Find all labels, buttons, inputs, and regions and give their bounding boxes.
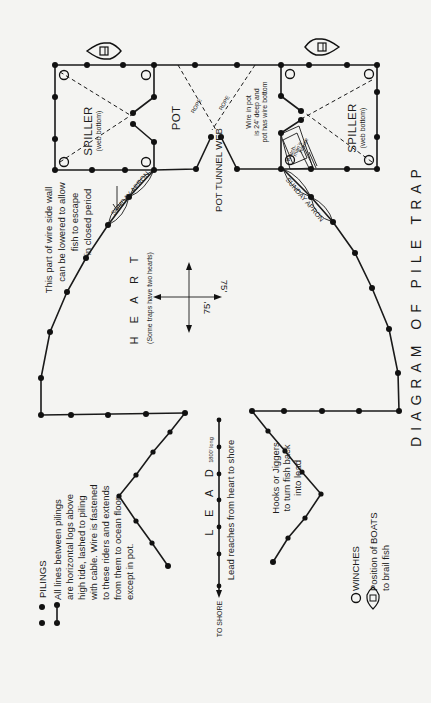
legend-pilings: PILINGS: [37, 561, 48, 599]
winch-icon: [60, 71, 69, 80]
pile-trap-diagram: SPILLER (web bottom) SPILLER (web bottom…: [0, 0, 431, 703]
heart-right-wall: [283, 169, 399, 411]
dimension-depth: 75': [219, 280, 230, 293]
lead-label: L E A D: [203, 464, 215, 535]
legend-boats-line1: Position of BOATS: [368, 513, 379, 592]
svg-text:to these riders and extends: to these riders and extends: [100, 485, 111, 600]
boat-icon: [87, 43, 121, 59]
rope-right-label: ROPE: [218, 94, 231, 111]
left-spiller-sublabel: (web bottom): [95, 111, 103, 152]
left-spiller-outer-wall: [55, 65, 154, 170]
boat-icon: [305, 39, 339, 55]
svg-text:with cable. Wire is fastened: with cable. Wire is fastened: [88, 484, 99, 601]
left-spiller-web-diagonal-a: [60, 72, 130, 115]
diagram-title: DIAGRAM OF PILE TRAP: [408, 163, 424, 447]
piling-icon: [39, 604, 45, 610]
to-shore-label: TO SHORE: [216, 600, 223, 637]
left-spiller-label: SPILLER: [82, 106, 94, 155]
sunday-apron-left-label: SUNDAY APRON: [110, 170, 151, 217]
lead-note: Lead reaches from heart to shore: [225, 440, 236, 580]
heart-label: H E A R T: [128, 251, 140, 344]
hooks-note: Hooks or Jiggers to turn fish back into …: [270, 442, 303, 514]
svg-text:This part of wire side wall: This part of wire side wall: [43, 187, 54, 294]
legend-lines-note: All lines between pilings are horizontal…: [52, 484, 135, 601]
svg-text:Hooks or Jiggers: Hooks or Jiggers: [270, 442, 281, 514]
legend-winches: WINCHES: [350, 546, 361, 591]
svg-text:are horizontal logs above: are horizontal logs above: [64, 494, 75, 600]
left-spiller-funnel-top: [133, 65, 154, 113]
svg-text:Wire in pot: Wire in pot: [245, 95, 253, 129]
legend-winch-icon: [352, 594, 361, 603]
svg-text:in closed period: in closed period: [82, 189, 93, 256]
dimension-width: 75': [201, 302, 212, 315]
pot-tunnel-web-label: POT TUNNEL WEB: [213, 128, 224, 212]
rope-left-label: ROPE: [190, 97, 203, 114]
heart-note: (Some traps have two hearts): [146, 252, 154, 344]
svg-text:from them to ocean floor: from them to ocean floor: [112, 497, 123, 600]
side-wall-note: This part of wire side wall can be lower…: [43, 182, 93, 293]
winch-icon: [365, 70, 374, 79]
winch-icon: [286, 70, 295, 79]
dimension-arrows: [153, 262, 222, 333]
svg-text:All lines between pilings: All lines between pilings: [52, 499, 63, 600]
svg-text:except in pot.: except in pot.: [124, 543, 135, 600]
to-shore-arrowhead: [216, 590, 222, 598]
pot-label: POT: [170, 106, 182, 131]
pot-tunnel-right: [221, 137, 281, 169]
heart-left-bottom: [41, 413, 185, 415]
svg-text:to turn fish back: to turn fish back: [281, 444, 292, 511]
legend-boats-line2: to brail fish: [380, 545, 391, 591]
svg-text:is 24' deep and: is 24' deep and: [253, 88, 261, 135]
piling-icon: [39, 620, 45, 626]
svg-text:pot has wire bottom: pot has wire bottom: [261, 81, 269, 142]
right-spiller-sublabel: (web bottom): [359, 108, 367, 149]
svg-text:into lead: into lead: [292, 460, 303, 496]
winch-icon: [142, 158, 151, 167]
right-spiller-label: SPILLER: [346, 103, 358, 152]
lead-length: 1800' long: [208, 437, 214, 463]
pot-tunnel-left: [154, 137, 211, 170]
wire-pot-note: Wire in pot is 24' deep and pot has wire…: [245, 81, 269, 142]
right-spiller-funnel-top: [281, 65, 301, 111]
winch-icon: [142, 71, 151, 80]
svg-text:can be lowered to allow: can be lowered to allow: [56, 182, 67, 281]
svg-text:high tide, lashed to piling: high tide, lashed to piling: [76, 495, 87, 600]
svg-text:fish to escape: fish to escape: [69, 193, 80, 252]
sunday-apron-right-label: SUNDAY APRON: [285, 176, 326, 223]
